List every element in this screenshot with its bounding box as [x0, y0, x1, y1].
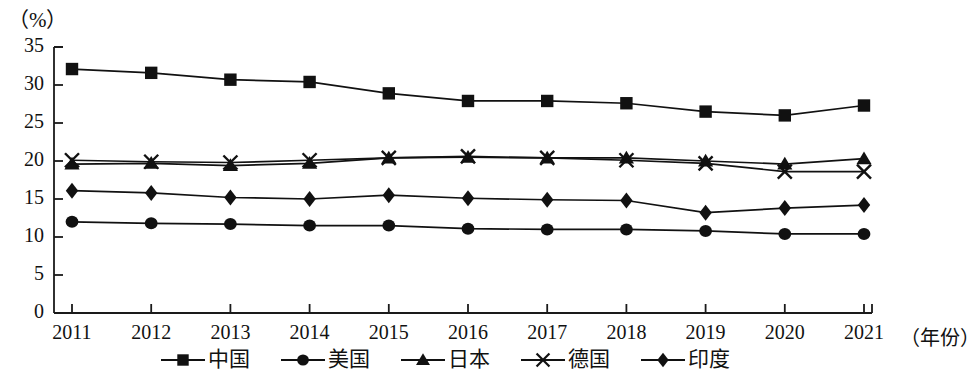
x-axis-tick-label: 2011	[32, 321, 112, 344]
data-point-diamond	[303, 191, 315, 207]
chart-legend: 中国美国日本德国印度	[0, 349, 890, 370]
x-axis-tick-label: 2019	[666, 321, 746, 344]
x-axis-tick-label: 2020	[745, 321, 825, 344]
data-point-circle	[382, 220, 395, 232]
legend-item-德国[interactable]: 德国	[520, 349, 610, 370]
axes	[54, 47, 872, 313]
data-point-diamond	[620, 193, 632, 209]
data-point-diamond	[383, 187, 395, 203]
y-axis-tick-label: 30	[4, 72, 44, 95]
series-line	[72, 69, 864, 115]
series-0	[66, 63, 870, 122]
x-axis-tick-label: 2014	[270, 321, 350, 344]
data-point-diamond	[66, 183, 78, 199]
data-point-circle	[620, 223, 633, 235]
x-axis-title: （年份）	[900, 322, 971, 351]
data-point-circle	[778, 228, 791, 240]
legend-label: 印度	[688, 349, 730, 370]
legend-label: 日本	[448, 349, 490, 370]
legend-marker-square-icon	[160, 350, 206, 370]
legend-item-美国[interactable]: 美国	[280, 349, 370, 370]
data-point-diamond	[657, 352, 668, 367]
legend-marker-diamond-icon	[640, 350, 686, 370]
y-axis-tick-label: 15	[4, 186, 44, 209]
series-layer	[64, 63, 871, 240]
x-axis-tick-label: 2016	[428, 321, 508, 344]
data-point-square	[177, 354, 188, 365]
legend-item-日本[interactable]: 日本	[400, 349, 490, 370]
legend-label: 美国	[328, 349, 370, 370]
data-point-square	[383, 87, 395, 99]
x-axis-tick-label: 2017	[507, 321, 587, 344]
y-axis-tick-label: 5	[4, 262, 44, 285]
y-axis-tick-label: 35	[4, 34, 44, 57]
data-point-circle	[297, 354, 309, 365]
data-point-square	[145, 67, 157, 79]
legend-item-印度[interactable]: 印度	[640, 349, 730, 370]
y-axis-tick-label: 0	[4, 300, 44, 323]
y-axis-tick-label: 10	[4, 224, 44, 247]
data-point-diamond	[779, 200, 791, 216]
data-point-square	[620, 97, 632, 109]
data-point-square	[224, 73, 236, 85]
data-point-diamond	[462, 190, 474, 206]
data-point-circle	[145, 217, 158, 229]
series-1	[66, 216, 871, 240]
legend-marker-cross-icon	[520, 350, 566, 370]
legend-item-中国[interactable]: 中国	[160, 349, 250, 370]
data-point-diamond	[541, 192, 553, 208]
data-point-square	[779, 109, 791, 121]
data-point-diamond	[699, 205, 711, 221]
x-axis-tick-label: 2015	[349, 321, 429, 344]
data-point-square	[858, 99, 870, 111]
x-axis-tick-label: 2018	[586, 321, 666, 344]
x-axis-tick-label: 2021	[824, 321, 904, 344]
legend-marker-triangle-icon	[400, 350, 446, 370]
legend-label: 德国	[568, 349, 610, 370]
data-point-diamond	[224, 189, 236, 205]
legend-label: 中国	[208, 349, 250, 370]
data-point-diamond	[145, 185, 157, 201]
x-axis-tick-label: 2012	[111, 321, 191, 344]
data-point-square	[66, 63, 78, 75]
data-point-circle	[303, 220, 316, 232]
data-point-square	[541, 95, 553, 107]
data-point-circle	[462, 223, 475, 235]
x-axis-tick-label: 2013	[190, 321, 270, 344]
data-point-circle	[66, 216, 79, 228]
data-point-square	[462, 95, 474, 107]
data-point-diamond	[858, 197, 870, 213]
data-point-square	[699, 105, 711, 117]
data-point-circle	[699, 225, 712, 237]
data-point-triangle	[856, 152, 871, 165]
data-point-square	[303, 76, 315, 88]
data-point-circle	[541, 223, 554, 235]
data-point-circle	[858, 228, 871, 240]
y-axis-tick-label: 25	[4, 110, 44, 133]
legend-marker-circle-icon	[280, 350, 326, 370]
series-4	[66, 183, 870, 221]
data-point-circle	[224, 218, 237, 230]
y-axis-tick-label: 20	[4, 148, 44, 171]
